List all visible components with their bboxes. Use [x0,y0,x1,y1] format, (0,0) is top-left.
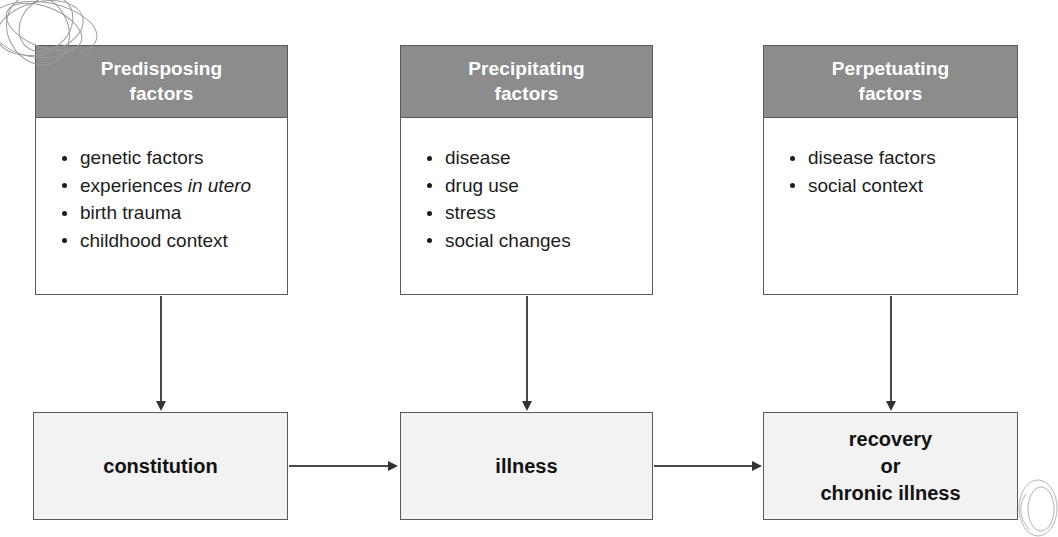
factor-body-predisposing: genetic factors experiences in utero bir… [36,118,287,254]
list-item: childhood context [62,227,287,255]
list-item: social context [790,172,1017,200]
factor-header-precipitating: Precipitating factors [401,46,652,118]
list-item-text: drug use [445,175,519,196]
list-item: disease factors [790,144,1017,172]
outcome-label-constitution: constitution [103,453,217,480]
outcome-line1: recovery [820,426,960,453]
outcome-line1: constitution [103,453,217,480]
factor-header-line1: Perpetuating [768,56,1013,81]
list-item: social changes [427,227,652,255]
list-item-text: social context [808,175,923,196]
list-item: disease [427,144,652,172]
outcome-label-recovery: recovery or chronic illness [820,426,960,507]
outcome-line1: illness [495,453,557,480]
list-item: drug use [427,172,652,200]
outcome-box-constitution[interactable]: constitution [33,412,288,520]
factor-box-predisposing[interactable]: Predisposing factors genetic factors exp… [35,45,288,295]
list-item-text: birth trauma [80,202,181,223]
list-item: birth trauma [62,199,287,227]
factor-box-perpetuating[interactable]: Perpetuating factors disease factors soc… [763,45,1018,295]
outcome-line3: chronic illness [820,480,960,507]
factor-box-precipitating[interactable]: Precipitating factors disease drug use s… [400,45,653,295]
list-item-text: disease factors [808,147,936,168]
factor-header-line1: Predisposing [40,56,283,81]
list-item: genetic factors [62,144,287,172]
outcome-box-recovery[interactable]: recovery or chronic illness [763,412,1018,520]
list-item: experiences in utero [62,172,287,200]
factor-header-line2: factors [40,81,283,106]
list-item-text: stress [445,202,496,223]
factor-header-line1: Precipitating [405,56,648,81]
factor-list-predisposing: genetic factors experiences in utero bir… [36,144,287,254]
outcome-box-illness[interactable]: illness [400,412,653,520]
outcome-line2: or [820,453,960,480]
list-item-text: social changes [445,230,571,251]
list-item: stress [427,199,652,227]
list-item-text: genetic factors [80,147,204,168]
factor-header-line2: factors [405,81,648,106]
factor-header-predisposing: Predisposing factors [36,46,287,118]
list-item-text: experiences [80,175,188,196]
arrow-perpetuating-to-recovery [890,296,892,402]
list-item-text: childhood context [80,230,228,251]
scan-oval-artifact [1014,478,1058,537]
arrow-constitution-to-illness [289,465,389,467]
arrow-predisposing-to-constitution [160,296,162,402]
arrow-illness-to-recovery [654,465,753,467]
factor-list-perpetuating: disease factors social context [764,144,1017,199]
list-item-text: disease [445,147,511,168]
list-item-emphasis: in utero [188,175,251,196]
factor-body-perpetuating: disease factors social context [764,118,1017,199]
outcome-label-illness: illness [495,453,557,480]
factor-body-precipitating: disease drug use stress social changes [401,118,652,254]
factor-header-perpetuating: Perpetuating factors [764,46,1017,118]
arrow-precipitating-to-illness [526,296,528,402]
factor-list-precipitating: disease drug use stress social changes [401,144,652,254]
factor-header-line2: factors [768,81,1013,106]
